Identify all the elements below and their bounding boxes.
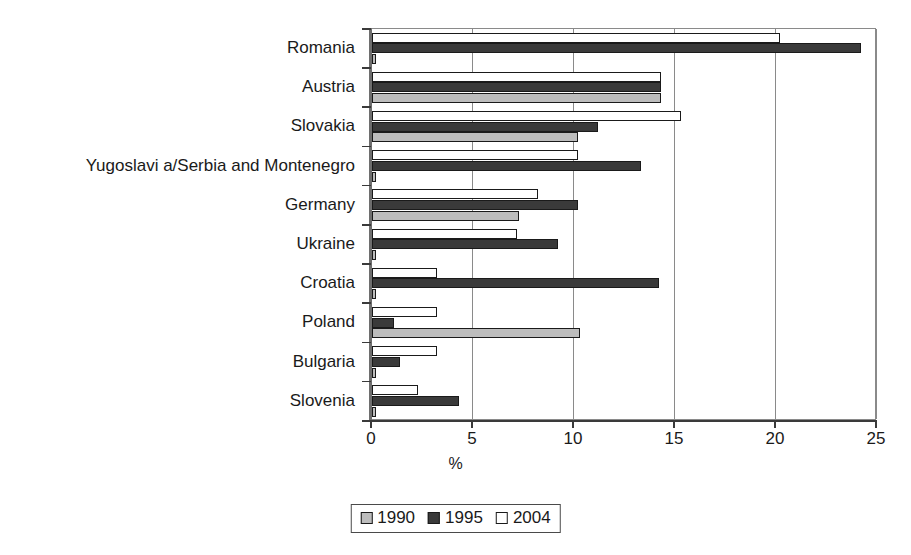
bar-2004 xyxy=(372,150,578,160)
bar-group xyxy=(372,225,875,264)
x-axis-tick-label: 5 xyxy=(467,429,476,449)
bar-1995 xyxy=(372,357,400,367)
x-axis-tick-label: 25 xyxy=(867,429,886,449)
x-axis-tick xyxy=(673,420,675,428)
bar-1990 xyxy=(372,172,376,182)
x-axis-tick xyxy=(774,420,776,428)
y-axis-tick xyxy=(362,28,371,30)
bar-group xyxy=(372,382,875,421)
y-axis-tick xyxy=(362,224,371,226)
bar-group xyxy=(372,68,875,107)
x-axis-tick xyxy=(875,420,877,428)
chart-legend: 199019952004 xyxy=(350,504,560,533)
bar-1995 xyxy=(372,396,459,406)
category-label: Slovakia xyxy=(291,106,355,145)
bar-2004 xyxy=(372,346,437,356)
bar-group xyxy=(372,303,875,342)
category-label: Yugoslavi a/Serbia and Montenegro xyxy=(86,146,355,185)
bar-1995 xyxy=(372,200,578,210)
x-axis-tick-label: 0 xyxy=(366,429,375,449)
bar-group xyxy=(372,29,875,68)
category-label: Austria xyxy=(302,67,355,106)
bar-1995 xyxy=(372,278,659,288)
bar-1995 xyxy=(372,161,641,171)
legend-swatch-icon xyxy=(496,512,508,524)
x-axis-title: % xyxy=(0,455,911,473)
bar-1990 xyxy=(372,93,661,103)
bar-1990 xyxy=(372,289,376,299)
legend-entry-1995: 1995 xyxy=(428,508,483,528)
y-axis-tick xyxy=(362,106,371,108)
bar-1995 xyxy=(372,318,394,328)
bar-2004 xyxy=(372,385,418,395)
bar-2004 xyxy=(372,307,437,317)
bar-1995 xyxy=(372,239,558,249)
plot-area xyxy=(371,28,876,420)
bar-group xyxy=(372,147,875,186)
bar-1990 xyxy=(372,368,376,378)
legend-entry-2004: 2004 xyxy=(496,508,551,528)
bar-2004 xyxy=(372,72,661,82)
legend-label: 1995 xyxy=(445,508,483,528)
category-label: Slovenia xyxy=(290,381,355,420)
y-axis-tick xyxy=(362,381,371,383)
category-label: Ukraine xyxy=(296,224,355,263)
y-axis-tick xyxy=(362,342,371,344)
bar-group xyxy=(372,343,875,382)
x-axis-tick-label: 10 xyxy=(564,429,583,449)
y-axis-tick xyxy=(362,302,371,304)
bar-1990 xyxy=(372,250,376,260)
bar-1990 xyxy=(372,407,376,417)
x-axis-tick-label: 15 xyxy=(665,429,684,449)
bar-2004 xyxy=(372,268,437,278)
category-label: Romania xyxy=(287,28,355,67)
legend-label: 1990 xyxy=(377,508,415,528)
bar-2004 xyxy=(372,33,780,43)
x-axis-tick xyxy=(572,420,574,428)
bar-group xyxy=(372,186,875,225)
x-axis-line xyxy=(369,420,877,422)
legend-swatch-icon xyxy=(360,512,372,524)
category-axis-labels: RomaniaAustriaSlovakiaYugoslavi a/Serbia… xyxy=(0,28,363,420)
bar-1990 xyxy=(372,211,519,221)
x-axis-tick xyxy=(471,420,473,428)
bar-group xyxy=(372,107,875,146)
bar-2004 xyxy=(372,111,681,121)
legend-label: 2004 xyxy=(513,508,551,528)
bar-2004 xyxy=(372,229,517,239)
category-label: Germany xyxy=(285,185,355,224)
bar-1990 xyxy=(372,328,580,338)
y-axis-tick xyxy=(362,67,371,69)
bar-1995 xyxy=(372,82,661,92)
category-label: Croatia xyxy=(300,263,355,302)
bar-1995 xyxy=(372,122,598,132)
bar-chart: RomaniaAustriaSlovakiaYugoslavi a/Serbia… xyxy=(0,0,911,555)
y-axis-tick xyxy=(362,185,371,187)
legend-entry-1990: 1990 xyxy=(360,508,415,528)
gridline xyxy=(876,29,877,419)
bar-1990 xyxy=(372,54,376,64)
x-axis-tick-label: 20 xyxy=(766,429,785,449)
category-label: Bulgaria xyxy=(293,342,355,381)
y-axis-tick xyxy=(362,146,371,148)
bar-1995 xyxy=(372,43,861,53)
y-axis-tick xyxy=(362,263,371,265)
legend-swatch-icon xyxy=(428,512,440,524)
x-axis-tick xyxy=(370,420,372,428)
bar-2004 xyxy=(372,189,538,199)
category-label: Poland xyxy=(302,302,355,341)
bar-1990 xyxy=(372,132,578,142)
bar-group xyxy=(372,264,875,303)
